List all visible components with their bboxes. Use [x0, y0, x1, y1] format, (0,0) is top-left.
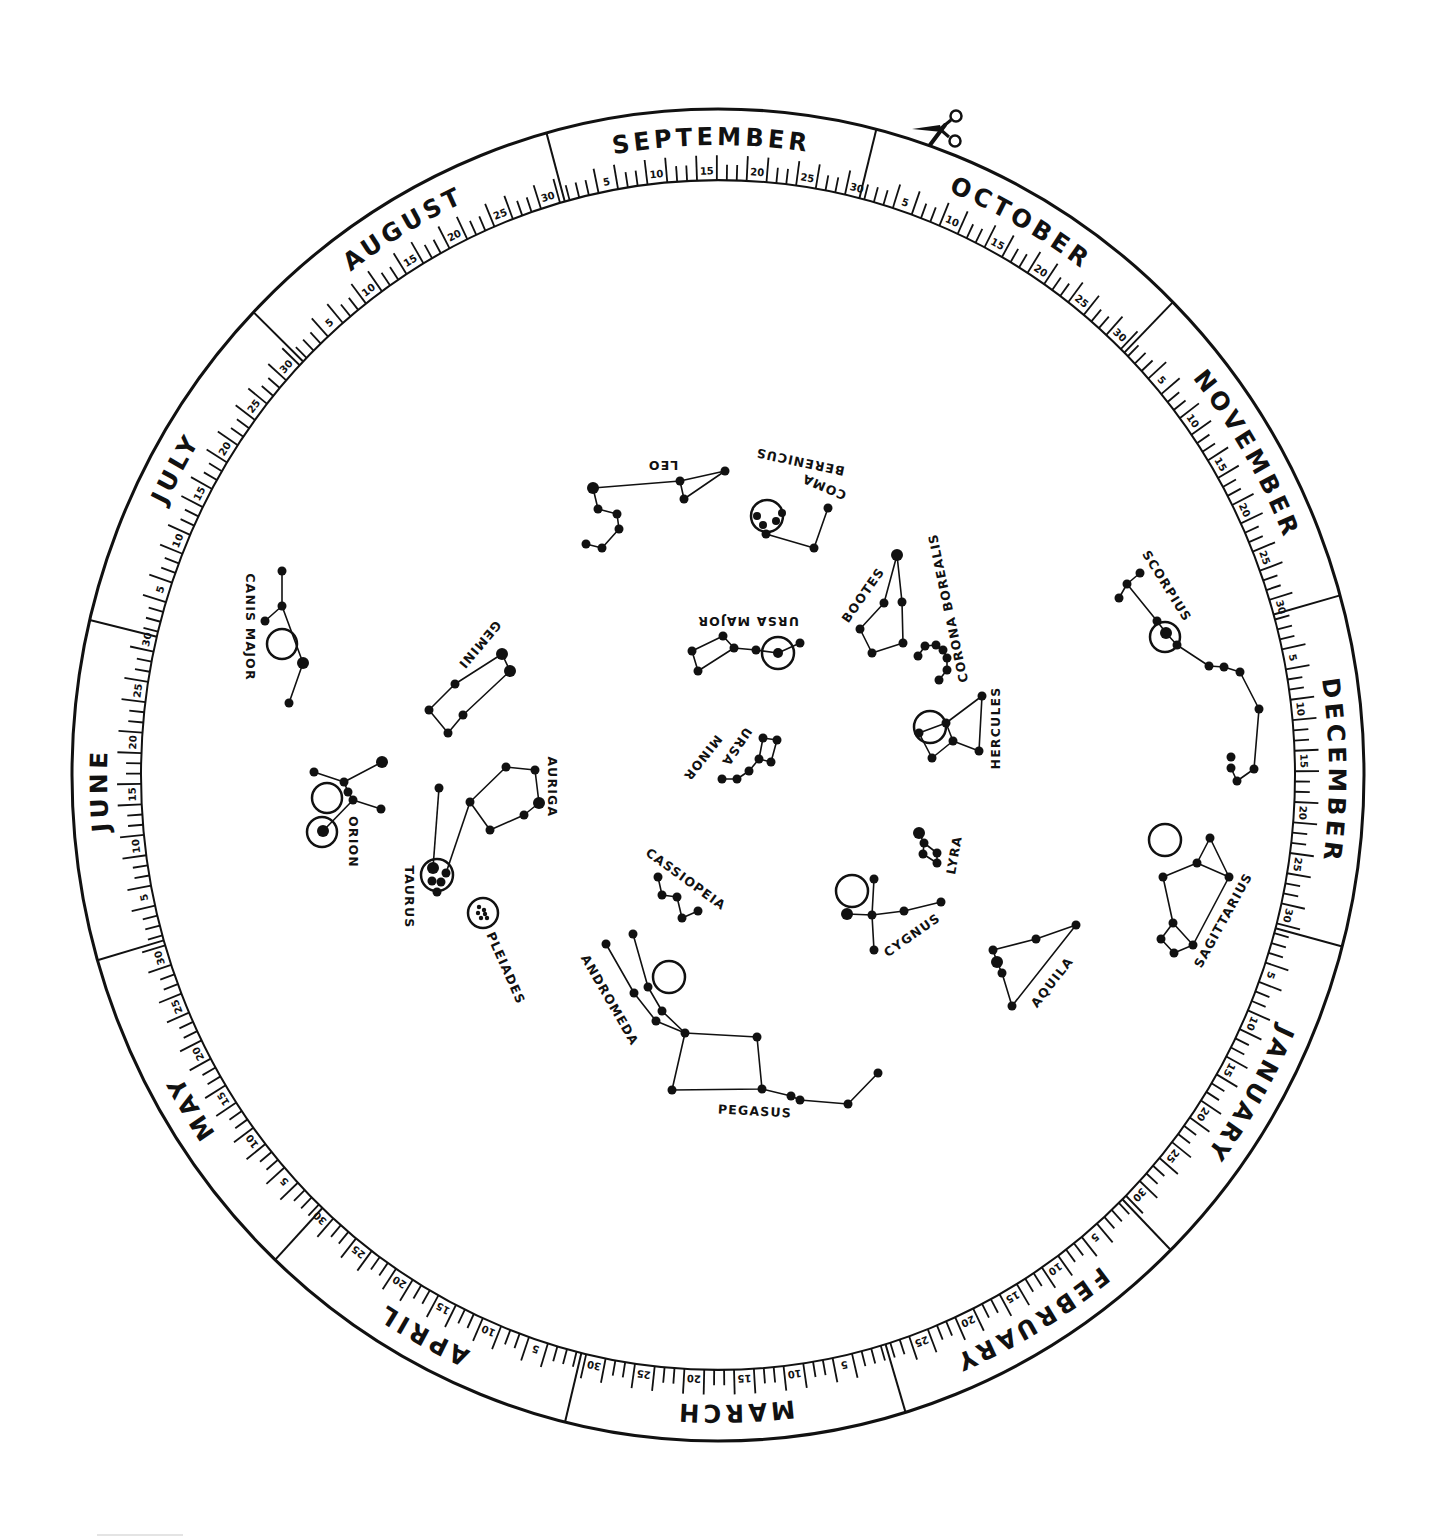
star: [425, 706, 434, 715]
star: [745, 767, 754, 776]
day-number: 15: [737, 1373, 751, 1385]
star: [680, 495, 689, 504]
month-label-march: MARCH: [675, 1394, 797, 1428]
day-tick: [1294, 802, 1318, 803]
star: [297, 657, 309, 669]
star: [758, 1085, 767, 1094]
star: [615, 525, 624, 534]
star: [928, 754, 937, 763]
star: [719, 632, 728, 641]
constellation-label: LEO: [648, 458, 679, 473]
star: [942, 719, 951, 728]
star: [1206, 834, 1215, 843]
star: [1173, 641, 1182, 650]
star: [1220, 663, 1229, 672]
star: [1189, 941, 1198, 950]
star: [721, 467, 730, 476]
star: [933, 859, 942, 868]
star: [582, 540, 591, 549]
day-tick: [127, 815, 142, 816]
star: [676, 477, 685, 486]
star: [868, 649, 877, 658]
constellation-label: ORION: [346, 816, 361, 868]
star: [502, 763, 511, 772]
star: [1227, 764, 1236, 773]
star: [752, 646, 761, 655]
page-background: [0, 0, 1438, 1536]
star: [868, 911, 877, 920]
day-number: 10: [787, 1368, 802, 1381]
star: [767, 758, 776, 767]
star: [1193, 859, 1202, 868]
star: [444, 729, 453, 738]
day-number: 10: [649, 168, 664, 181]
star: [1008, 1002, 1017, 1011]
day-number: 25: [800, 171, 815, 184]
star: [630, 989, 639, 998]
star: [1157, 935, 1166, 944]
star: [629, 930, 638, 939]
star: [1159, 873, 1168, 882]
star: [730, 644, 739, 653]
star: [935, 676, 944, 685]
day-number: 25: [1291, 857, 1304, 873]
star: [824, 504, 833, 513]
star: [427, 862, 439, 874]
day-tick: [734, 1370, 735, 1395]
star: [694, 907, 703, 916]
star: [310, 768, 319, 777]
star: [810, 544, 819, 553]
day-number: 10: [130, 838, 142, 854]
star: [496, 648, 508, 660]
day-tick: [117, 752, 141, 753]
star: [870, 946, 879, 955]
star: [913, 827, 925, 839]
star: [773, 648, 783, 658]
star: [1153, 617, 1162, 626]
star: [678, 914, 687, 923]
day-tick: [696, 156, 697, 181]
star: [658, 1007, 667, 1016]
star: [1233, 777, 1242, 786]
star: [477, 905, 481, 909]
star: [759, 734, 768, 743]
star: [856, 625, 865, 634]
star: [733, 775, 742, 784]
star: [533, 797, 545, 809]
day-tick: [747, 156, 748, 181]
star: [1205, 662, 1214, 671]
day-tick: [1295, 750, 1319, 751]
star: [377, 805, 386, 814]
star: [1227, 753, 1236, 762]
star: [898, 598, 907, 607]
star: [673, 893, 682, 902]
day-tick: [764, 1368, 765, 1383]
star: [978, 692, 987, 701]
star: [278, 602, 287, 611]
star: [772, 517, 780, 525]
star: [485, 916, 489, 920]
star: [694, 667, 703, 676]
star: [933, 849, 942, 858]
star: [762, 530, 771, 539]
star: [759, 521, 767, 529]
day-number: 25: [636, 1368, 651, 1381]
star: [261, 617, 270, 626]
star: [317, 825, 329, 837]
star: [914, 652, 923, 661]
star: [796, 1096, 805, 1105]
day-tick: [128, 825, 143, 826]
star: [451, 680, 460, 689]
star: [520, 811, 529, 820]
star: [442, 869, 451, 878]
star: [688, 647, 697, 656]
month-label-june: JUNE: [84, 747, 115, 835]
star: [285, 699, 294, 708]
star: [278, 567, 287, 576]
day-tick: [673, 1368, 674, 1383]
star: [437, 878, 446, 887]
star: [1160, 627, 1172, 639]
star: [1250, 765, 1259, 774]
constellation-label: TAURUS: [402, 866, 417, 929]
star: [975, 747, 984, 756]
